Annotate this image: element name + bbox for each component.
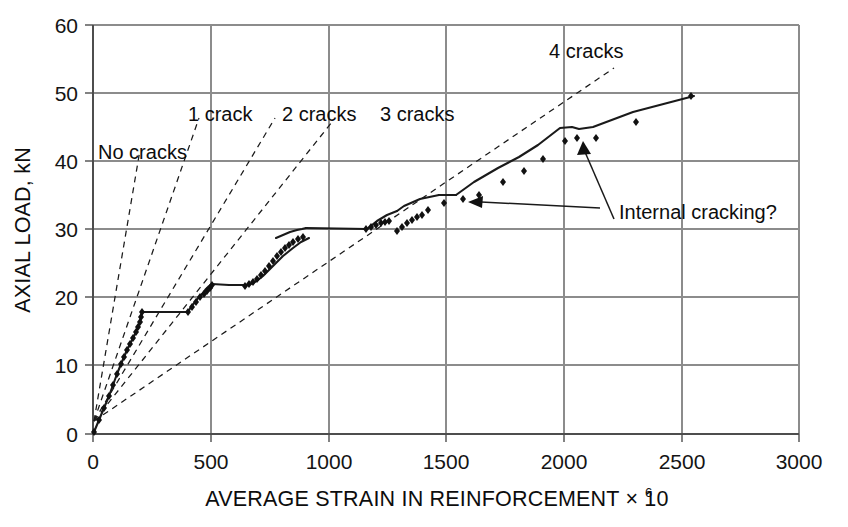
one-crack-label: 1 crack	[188, 103, 253, 125]
ytick-label-40: 40	[55, 150, 78, 173]
ytick-label-60: 60	[55, 14, 78, 37]
ytick-label-30: 30	[55, 218, 78, 241]
ytick-label-0: 0	[66, 423, 78, 446]
no-cracks-label: No cracks	[98, 141, 187, 163]
ytick-label-20: 20	[55, 286, 78, 309]
xtick-label-2000: 2000	[541, 450, 588, 473]
xtick-label-1500: 1500	[423, 450, 470, 473]
xtick-label-3000: 3000	[776, 450, 823, 473]
chart-figure: 60 50 40 30 20 10 0 0 500 1000 1500 2000…	[0, 0, 848, 527]
ytick-label-10: 10	[55, 354, 78, 377]
xtick-label-0: 0	[87, 450, 99, 473]
curve-plateau-2	[212, 284, 248, 285]
x-axis-title: AVERAGE STRAIN IN REINFORCEMENT × 10	[205, 487, 668, 511]
ytick-label-50: 50	[55, 82, 78, 105]
internal-cracking-label: Internal cracking?	[619, 201, 777, 223]
axial-load-vs-strain-chart: 60 50 40 30 20 10 0 0 500 1000 1500 2000…	[0, 0, 848, 527]
x-axis-title-exponent: 6	[645, 485, 652, 500]
four-cracks-label: 4 cracks	[549, 40, 623, 62]
xtick-label-500: 500	[193, 450, 228, 473]
curve-plateau-4	[306, 228, 367, 229]
y-axis-title: AXIAL LOAD, kN	[11, 147, 35, 313]
y-axis-ticks	[85, 25, 93, 434]
xtick-label-1000: 1000	[306, 450, 353, 473]
two-cracks-label: 2 cracks	[282, 103, 356, 125]
x-axis-ticks	[93, 434, 799, 442]
three-cracks-label: 3 cracks	[380, 103, 454, 125]
xtick-label-2500: 2500	[659, 450, 706, 473]
